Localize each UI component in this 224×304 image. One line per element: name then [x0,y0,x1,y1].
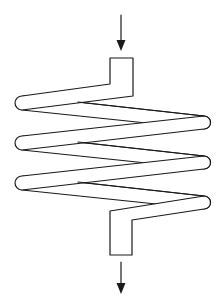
inlet-arrow-icon [117,15,126,51]
outlet-pipe [110,196,211,255]
outlet-arrow-icon [117,262,126,294]
coil-diagram [0,0,224,304]
inlet-pipe [15,58,133,110]
coil-back-segments [22,96,211,209]
